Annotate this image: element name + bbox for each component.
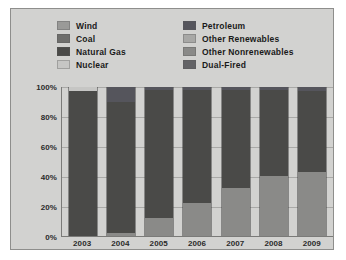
x-axis: 2003 2004 2005 2006 2007 2008 2009 bbox=[61, 239, 333, 253]
bar-segment-petroleum[interactable] bbox=[107, 87, 135, 102]
x-tick-2004: 2004 bbox=[105, 239, 135, 253]
legend-label-dual-fired: Dual-Fired bbox=[202, 60, 246, 70]
legend-swatch-dual-fired bbox=[183, 60, 196, 69]
bar-segment-natural-gas[interactable] bbox=[107, 102, 135, 233]
x-tick-2006: 2006 bbox=[182, 239, 212, 253]
plot-area bbox=[61, 87, 333, 237]
bar-segment-natural-gas[interactable] bbox=[69, 91, 97, 236]
legend-item-coal[interactable]: Coal bbox=[57, 32, 187, 45]
chart-panel: Wind Coal Natural Gas Nuclear bbox=[10, 8, 334, 250]
bar-segment-other-nonrenewables[interactable] bbox=[222, 188, 250, 236]
y-tick-60: 60% bbox=[41, 143, 57, 152]
stacked-bar[interactable] bbox=[182, 87, 212, 236]
plot-wrapper: 100% 80% 60% 40% 20% 0% 2003 2004 2005 2… bbox=[29, 79, 335, 245]
bar-segment-other-nonrenewables[interactable] bbox=[298, 172, 326, 236]
stacked-bar[interactable] bbox=[144, 87, 174, 236]
bar-column-2006[interactable] bbox=[182, 87, 212, 236]
legend-item-petroleum[interactable]: Petroleum bbox=[183, 19, 313, 32]
y-axis: 100% 80% 60% 40% 20% 0% bbox=[29, 79, 59, 231]
x-tick-2009: 2009 bbox=[297, 239, 327, 253]
legend-item-wind[interactable]: Wind bbox=[57, 19, 187, 32]
legend-swatch-natural-gas bbox=[57, 47, 70, 56]
x-tick-2008: 2008 bbox=[259, 239, 289, 253]
bar-segment-other-nonrenewables[interactable] bbox=[145, 218, 173, 236]
x-tick-2005: 2005 bbox=[144, 239, 174, 253]
bar-segment-natural-gas[interactable] bbox=[260, 90, 288, 176]
legend-swatch-wind bbox=[57, 21, 70, 30]
y-tick-80: 80% bbox=[41, 113, 57, 122]
legend-label-nuclear: Nuclear bbox=[76, 60, 109, 70]
y-tick-0: 0% bbox=[45, 233, 57, 242]
bar-segment-natural-gas[interactable] bbox=[222, 90, 250, 188]
legend-label-other-renewables: Other Renewables bbox=[202, 34, 279, 44]
bar-column-2005[interactable] bbox=[144, 87, 174, 236]
legend-label-natural-gas: Natural Gas bbox=[76, 47, 126, 57]
stacked-bar[interactable] bbox=[68, 87, 98, 236]
legend-label-petroleum: Petroleum bbox=[202, 21, 245, 31]
legend-item-dual-fired[interactable]: Dual-Fired bbox=[183, 58, 313, 71]
legend-swatch-other-renewables bbox=[183, 34, 196, 43]
legend-item-nuclear[interactable]: Nuclear bbox=[57, 58, 187, 71]
bar-group bbox=[62, 87, 333, 236]
legend-label-other-nonrenewables: Other Nonrenewables bbox=[202, 47, 294, 57]
legend-item-natural-gas[interactable]: Natural Gas bbox=[57, 45, 187, 58]
legend-swatch-coal bbox=[57, 34, 70, 43]
legend-item-other-nonrenewables[interactable]: Other Nonrenewables bbox=[183, 45, 313, 58]
legend-swatch-nuclear bbox=[57, 60, 70, 69]
x-tick-2003: 2003 bbox=[67, 239, 97, 253]
stacked-bar[interactable] bbox=[221, 87, 251, 236]
bar-column-2008[interactable] bbox=[259, 87, 289, 236]
bar-segment-natural-gas[interactable] bbox=[145, 90, 173, 218]
legend-column-left: Wind Coal Natural Gas Nuclear bbox=[57, 19, 187, 71]
bar-segment-other-nonrenewables[interactable] bbox=[260, 176, 288, 236]
stacked-bar[interactable] bbox=[297, 87, 327, 236]
bar-column-2004[interactable] bbox=[106, 87, 136, 236]
bar-column-2009[interactable] bbox=[297, 87, 327, 236]
bar-segment-other-nonrenewables[interactable] bbox=[183, 203, 211, 236]
bar-column-2007[interactable] bbox=[221, 87, 251, 236]
legend-label-wind: Wind bbox=[76, 21, 98, 31]
chart-screenshot: Wind Coal Natural Gas Nuclear bbox=[0, 0, 346, 260]
bar-segment-natural-gas[interactable] bbox=[183, 90, 211, 203]
y-tick-20: 20% bbox=[41, 203, 57, 212]
legend-swatch-petroleum bbox=[183, 21, 196, 30]
legend-swatch-other-nonrenewables bbox=[183, 47, 196, 56]
bar-segment-other-nonrenewables[interactable] bbox=[107, 233, 135, 236]
stacked-bar[interactable] bbox=[259, 87, 289, 236]
chart-legend: Wind Coal Natural Gas Nuclear bbox=[57, 19, 325, 75]
y-tick-100: 100% bbox=[36, 83, 57, 92]
bar-segment-natural-gas[interactable] bbox=[298, 91, 326, 171]
x-tick-2007: 2007 bbox=[220, 239, 250, 253]
legend-column-right: Petroleum Other Renewables Other Nonrene… bbox=[183, 19, 313, 71]
bar-column-2003[interactable] bbox=[68, 87, 98, 236]
legend-item-other-renewables[interactable]: Other Renewables bbox=[183, 32, 313, 45]
stacked-bar[interactable] bbox=[106, 87, 136, 236]
legend-label-coal: Coal bbox=[76, 34, 95, 44]
y-tick-40: 40% bbox=[41, 173, 57, 182]
